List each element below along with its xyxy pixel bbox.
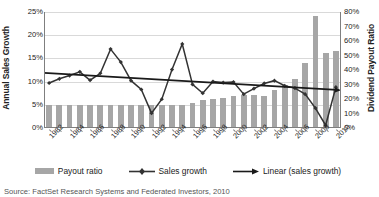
sales-growth-marker-1994 — [170, 67, 174, 71]
y-tick-right-20: 20% — [344, 95, 359, 103]
x-axis-labels: 1982198419861988199019921994199619982000… — [44, 130, 341, 160]
y-tick-left-0: 0% — [32, 124, 43, 132]
y-tick-right-60: 60% — [344, 37, 359, 45]
y-axis-left-title-text: Annual Sales Growth — [1, 26, 11, 110]
y-tick-left-5: 5% — [32, 101, 43, 109]
y-tick-right-30: 30% — [344, 81, 359, 89]
plot-area — [44, 12, 341, 128]
line-arrow-icon — [233, 167, 259, 176]
y-axis-left-ticks: 0%5%10%15%20%25% — [13, 0, 43, 135]
y-tick-right-80: 80% — [344, 8, 359, 16]
axis-bottom-line — [44, 127, 341, 128]
legend-label-sales-growth: Sales growth — [159, 166, 207, 176]
line-diamond-icon — [129, 167, 155, 176]
legend-item-linear-sales-growth: Linear (sales growth) — [233, 166, 341, 176]
y-tick-left-20: 20% — [28, 31, 43, 39]
axis-left-line — [44, 12, 45, 128]
y-tick-left-15: 15% — [28, 55, 43, 63]
y-tick-right-70: 70% — [344, 23, 359, 31]
bar-swatch-icon — [35, 168, 54, 174]
y-tick-right-10: 10% — [344, 110, 359, 118]
y-axis-right-ticks: 0%10%20%30%40%50%60%70%80% — [341, 0, 373, 135]
legend-item-payout-ratio: Payout ratio — [35, 166, 103, 176]
y-axis-left-title: Annual Sales Growth — [0, 0, 14, 135]
legend-item-sales-growth: Sales growth — [129, 166, 207, 176]
sales-growth-marker-1982 — [47, 81, 51, 85]
sales-growth-marker-1983 — [57, 77, 61, 81]
chart-legend: Payout ratio Sales growth Linear (sales … — [0, 163, 376, 179]
legend-label-payout-ratio: Payout ratio — [58, 166, 103, 176]
y-tick-left-10: 10% — [28, 78, 43, 86]
source-caption: Source: FactSet Research Systems and Fed… — [4, 187, 372, 197]
top-border — [0, 0, 376, 2]
sales-growth-marker-1995 — [180, 42, 184, 46]
line-series-layer — [44, 12, 341, 128]
y-tick-right-50: 50% — [344, 52, 359, 60]
y-tick-left-25: 25% — [28, 8, 43, 16]
legend-label-linear-sales-growth: Linear (sales growth) — [263, 166, 341, 176]
axis-right-line — [340, 12, 341, 128]
y-tick-right-40: 40% — [344, 66, 359, 74]
